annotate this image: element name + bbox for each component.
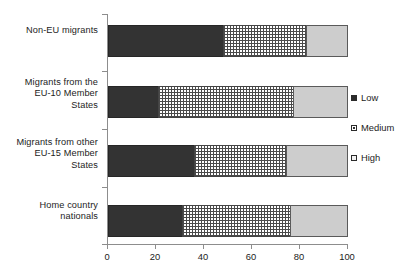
x-axis-line bbox=[107, 244, 348, 245]
y-axis-tick bbox=[102, 71, 107, 72]
bar-row bbox=[108, 25, 348, 57]
legend-swatch-medium-icon bbox=[351, 125, 357, 131]
bar-segment-low bbox=[108, 25, 223, 57]
y-axis-tick bbox=[102, 14, 107, 15]
x-axis-tick-label: 40 bbox=[183, 251, 223, 262]
x-axis-tick-label: 60 bbox=[231, 251, 271, 262]
x-axis-tick bbox=[299, 244, 300, 249]
category-label-line: States bbox=[0, 160, 98, 171]
x-axis-tick bbox=[203, 244, 204, 249]
legend-label-low: Low bbox=[361, 92, 378, 103]
x-axis-tick-label: 100 bbox=[327, 251, 367, 262]
category-label-line: Non-EU migrants bbox=[0, 25, 98, 36]
bar-segment-low bbox=[108, 86, 158, 118]
x-axis-tick bbox=[107, 244, 108, 249]
category-label-line: nationals bbox=[0, 211, 98, 222]
stacked-bar-chart: Non-EU migrants Migrants from the EU-10 … bbox=[0, 0, 407, 274]
bar-segment-medium bbox=[194, 145, 285, 177]
bar-segment-low bbox=[108, 145, 194, 177]
bar-segment-high bbox=[306, 25, 348, 57]
x-axis-tick bbox=[155, 244, 156, 249]
bar-row bbox=[108, 145, 348, 177]
category-label-2: Migrants from other EU-15 Member States bbox=[0, 137, 98, 171]
x-axis-tick bbox=[251, 244, 252, 249]
x-axis-tick-label: 80 bbox=[279, 251, 319, 262]
category-label-line: Migrants from the bbox=[0, 77, 98, 88]
bar-segment-high bbox=[286, 145, 348, 177]
category-label-0: Non-EU migrants bbox=[0, 25, 98, 36]
bar-segment-medium bbox=[223, 25, 306, 57]
category-label-line: EU-10 Member bbox=[0, 88, 98, 99]
legend-swatch-high-icon bbox=[351, 155, 357, 161]
category-label-line: Migrants from other bbox=[0, 137, 98, 148]
bar-segment-medium bbox=[158, 86, 292, 118]
x-axis-tick-label: 0 bbox=[87, 251, 127, 262]
legend-label-high: High bbox=[361, 152, 380, 163]
bar-segment-low bbox=[108, 205, 182, 237]
category-label-line: Home country bbox=[0, 200, 98, 211]
x-axis-tick-label: 20 bbox=[135, 251, 175, 262]
category-label-1: Migrants from the EU-10 Member States bbox=[0, 77, 98, 111]
bar-row bbox=[108, 86, 348, 118]
legend-item-low: Low bbox=[351, 92, 378, 103]
bar-segment-high bbox=[293, 86, 348, 118]
legend-item-high: High bbox=[351, 152, 380, 163]
legend-item-medium: Medium bbox=[351, 122, 394, 133]
x-axis-tick bbox=[347, 244, 348, 249]
bar-segment-high bbox=[290, 205, 348, 237]
category-label-3: Home country nationals bbox=[0, 200, 98, 223]
y-axis-tick bbox=[102, 187, 107, 188]
category-label-line: EU-15 Member bbox=[0, 148, 98, 159]
legend-swatch-low-icon bbox=[351, 95, 357, 101]
category-label-line: States bbox=[0, 100, 98, 111]
bar-row bbox=[108, 205, 348, 237]
y-axis-tick bbox=[102, 129, 107, 130]
legend-label-medium: Medium bbox=[361, 122, 394, 133]
bar-segment-medium bbox=[182, 205, 290, 237]
